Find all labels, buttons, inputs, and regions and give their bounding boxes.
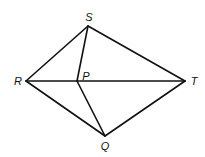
label-R: R xyxy=(14,75,22,87)
segment-ST xyxy=(88,26,185,81)
label-T: T xyxy=(191,75,199,87)
label-P: P xyxy=(82,70,90,82)
segment-QR xyxy=(26,81,105,136)
label-Q: Q xyxy=(101,140,110,152)
segment-PQ xyxy=(77,81,105,136)
quadrilateral-diagram: S R P T Q xyxy=(0,0,205,157)
label-S: S xyxy=(85,11,93,23)
segment-TQ xyxy=(105,81,185,136)
